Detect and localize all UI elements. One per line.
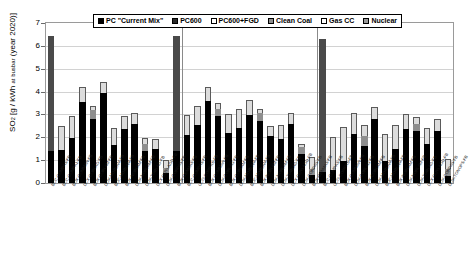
bar-segment (361, 125, 367, 136)
bar-segment (121, 116, 127, 129)
legend-swatch (363, 18, 369, 24)
legend-item-5: Nuclear (363, 17, 397, 25)
y-axis-tick-label: 7 (36, 19, 40, 27)
bar-segment (131, 113, 137, 124)
bar-segment (371, 107, 377, 119)
legend-label: PC600+FGD (219, 17, 259, 25)
bar-segment (278, 125, 284, 139)
bar-segment (79, 87, 85, 102)
bar-segment (215, 109, 221, 116)
bar-segment (413, 117, 419, 124)
bar-segment (194, 106, 200, 125)
bar-segment (58, 126, 64, 150)
legend-label: Nuclear (371, 17, 397, 25)
y-axis-tick-label: 5 (36, 65, 40, 73)
bar-segment (225, 114, 231, 133)
y-axis-tick-label: 6 (36, 42, 40, 50)
legend-swatch (211, 18, 217, 24)
bar-segment (257, 113, 263, 121)
bar-segment (351, 113, 357, 134)
legend-item-0: PC "Current Mix" (98, 17, 163, 25)
legend-item-4: Gas CC (321, 17, 354, 25)
bar-segment (267, 126, 273, 136)
bar-segment (90, 110, 96, 119)
bar-segment (173, 36, 179, 151)
bar-segment (434, 119, 440, 131)
bar-segment (403, 114, 409, 130)
legend-swatch (98, 18, 104, 24)
bar (48, 36, 54, 183)
bar-segment (184, 115, 190, 136)
bar-segment (424, 128, 430, 144)
bar-segment (361, 136, 367, 146)
legend-swatch (172, 18, 178, 24)
legend-swatch (268, 18, 274, 24)
y-axis-tick-label: 3 (36, 110, 40, 118)
legend-label: Gas CC (329, 17, 354, 25)
y-axis-tick-label: 0 (36, 179, 40, 187)
y-axis-title: SO2 [g / kWh at busbar (year 2020)] (8, 0, 17, 148)
bar-segment (100, 82, 106, 94)
bar-segment (413, 124, 419, 131)
bar-segment (142, 144, 148, 151)
bar-segment (152, 139, 158, 148)
y-axis-tick-label: 2 (36, 133, 40, 141)
bar-segment (205, 87, 211, 102)
bar-segment (392, 125, 398, 149)
legend-label: PC600 (180, 17, 201, 25)
y-axis: SO2 [g / kWh at busbar (year 2020)] 0123… (0, 22, 45, 184)
bar-segment (48, 36, 54, 151)
legend-swatch (321, 18, 327, 24)
y-axis-tick-label: 4 (36, 88, 40, 96)
legend-label: PC "Current Mix" (106, 17, 163, 25)
legend-item-2: PC600+FGD (211, 17, 259, 25)
x-axis-labels: BCC-COMPAS-FBBCC-COMPA1-FBBOX-COMMAN-FBD… (45, 185, 454, 259)
bar-segment (111, 128, 117, 145)
legend-item-3: Clean Coal (268, 17, 312, 25)
legend-item-1: PC600 (172, 17, 201, 25)
bar-segment (298, 147, 304, 154)
y-axis-tick-label: 1 (36, 156, 40, 164)
bar-segment (69, 116, 75, 138)
legend-label: Clean Coal (276, 17, 312, 25)
bar-segment (236, 109, 242, 129)
bar-segment (288, 113, 294, 124)
bar-segment (319, 39, 325, 172)
chart-legend: PC "Current Mix"PC600PC600+FGDClean Coal… (93, 14, 402, 28)
bar-segment (246, 100, 252, 115)
